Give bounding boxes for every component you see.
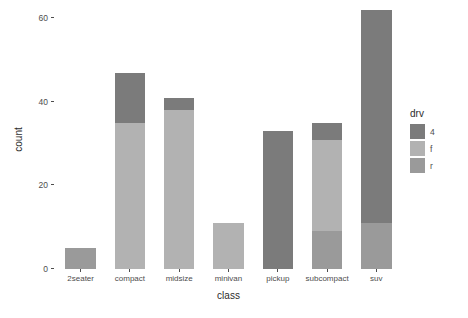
bar-midsize[interactable] (164, 98, 195, 269)
legend-swatch-4 (410, 124, 425, 139)
bar-chart: count 0204060 2seatercompactmidsizeminiv… (0, 0, 468, 318)
x-tick: subcompact (302, 269, 351, 289)
x-tick: suv (352, 269, 401, 289)
bar-suv[interactable] (361, 10, 392, 269)
bar-segment-midsize-4[interactable] (164, 98, 195, 111)
x-tick-mark (376, 269, 377, 272)
legend-entries: 4fr (410, 123, 468, 174)
x-tick-mark (277, 269, 278, 272)
x-tick: midsize (155, 269, 204, 289)
y-tick: 20 (0, 179, 56, 191)
bar-segment-minivan-f[interactable] (213, 223, 244, 269)
y-tick-mark (51, 268, 54, 269)
bar-segment-subcompact-r[interactable] (312, 231, 343, 269)
x-tick: minivan (204, 269, 253, 289)
y-axis: count 0204060 (0, 10, 56, 269)
bar-subcompact[interactable] (312, 123, 343, 269)
y-tick-mark (51, 101, 54, 102)
legend: drv 4fr (410, 108, 468, 174)
bar-segment-midsize-f[interactable] (164, 110, 195, 269)
y-tick-mark (51, 184, 54, 185)
legend-swatch-f (410, 141, 425, 156)
legend-label-4: 4 (430, 127, 435, 137)
x-axis-title-label: class (217, 290, 240, 301)
bar-segment-compact-f[interactable] (115, 123, 146, 269)
x-tick-label: compact (115, 274, 145, 283)
y-tick-label: 60 (39, 12, 48, 24)
x-tick-mark (129, 269, 130, 272)
x-tick-mark (327, 269, 328, 272)
bar-segment-subcompact-f[interactable] (312, 140, 343, 232)
x-tick-label: suv (370, 274, 382, 283)
bar-minivan[interactable] (213, 223, 244, 269)
y-tick: 40 (0, 96, 56, 108)
y-tick-mark (51, 17, 54, 18)
bar-segment-suv-r[interactable] (361, 223, 392, 269)
y-tick-label: 40 (39, 96, 48, 108)
legend-item-f[interactable]: f (410, 140, 468, 157)
legend-label-f: f (430, 144, 432, 154)
bar-compact[interactable] (115, 73, 146, 269)
x-tick: pickup (253, 269, 302, 289)
bar-pickup[interactable] (263, 131, 294, 269)
y-axis-title-label: count (13, 127, 24, 151)
bar-segment-subcompact-4[interactable] (312, 123, 343, 140)
x-tick-mark (228, 269, 229, 272)
y-axis-title: count (10, 10, 26, 269)
x-tick-mark (80, 269, 81, 272)
y-tick-label: 0 (43, 263, 48, 275)
x-tick: compact (105, 269, 154, 289)
bar-segment-suv-4[interactable] (361, 10, 392, 223)
x-tick: 2seater (56, 269, 105, 289)
bar-2seater[interactable] (65, 248, 96, 269)
legend-item-r[interactable]: r (410, 157, 468, 174)
x-tick-label: 2seater (67, 274, 94, 283)
x-tick-label: midsize (166, 274, 193, 283)
y-tick-label: 20 (39, 179, 48, 191)
bar-segment-compact-4[interactable] (115, 73, 146, 123)
bar-segment-pickup-4[interactable] (263, 131, 294, 269)
x-tick-mark (179, 269, 180, 272)
legend-item-4[interactable]: 4 (410, 123, 468, 140)
y-tick: 0 (0, 263, 56, 275)
legend-label-r: r (430, 161, 433, 171)
bar-segment-2seater-r[interactable] (65, 248, 96, 269)
x-tick-label: minivan (215, 274, 243, 283)
x-tick-label: pickup (266, 274, 289, 283)
y-tick: 60 (0, 12, 56, 24)
plot-panel (56, 10, 401, 269)
legend-swatch-r (410, 158, 425, 173)
x-axis: 2seatercompactmidsizeminivanpickupsubcom… (56, 269, 401, 289)
legend-title: drv (410, 108, 468, 119)
x-axis-title: class (56, 290, 401, 301)
x-tick-label: subcompact (305, 274, 348, 283)
